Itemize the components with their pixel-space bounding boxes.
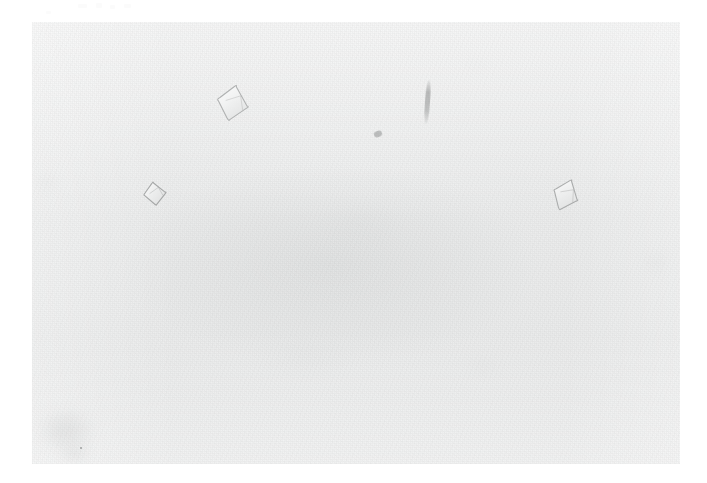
film-grain-overlay-alt xyxy=(32,22,680,464)
artifact-4 xyxy=(124,4,131,8)
artifact-2 xyxy=(96,3,102,8)
crystal-2 xyxy=(141,179,168,207)
artifact-3 xyxy=(110,5,115,9)
dot-1 xyxy=(80,447,82,449)
micrograph-image xyxy=(32,22,680,464)
page-root xyxy=(0,0,707,483)
artifact-1 xyxy=(78,4,87,8)
artifact-5 xyxy=(46,11,51,14)
